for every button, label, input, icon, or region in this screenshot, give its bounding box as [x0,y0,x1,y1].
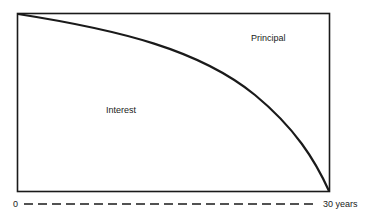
amortization-chart [0,0,372,217]
x-end-label: 30 years [323,200,358,209]
interest-label: Interest [106,106,136,115]
x-start-label: 0 [13,200,18,209]
principal-label: Principal [251,34,286,43]
